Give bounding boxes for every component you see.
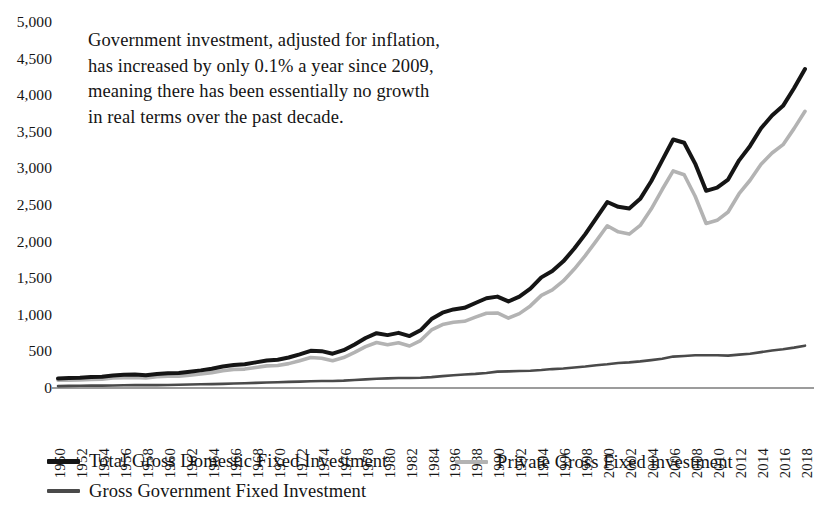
legend-item-government[interactable]: Gross Government Fixed Investment: [47, 481, 366, 501]
y-axis-tick-label: 5,000: [4, 14, 52, 30]
legend-label-private: Private Gross Fixed investment: [497, 452, 733, 472]
chart-figure: 5,0004,5004,0003,5003,0002,5002,0001,500…: [0, 0, 829, 519]
y-axis-tick-label: 1,000: [4, 307, 52, 323]
line-series-government: [58, 111, 805, 380]
legend-item-total[interactable]: Total Gross Domestic Fixed Investment: [47, 451, 387, 471]
legend-item-private[interactable]: Private Gross Fixed investment: [455, 452, 733, 472]
chart-legend: Total Gross Domestic Fixed Investment Pr…: [0, 448, 829, 519]
y-axis-tick-label: 1,500: [4, 270, 52, 286]
legend-swatch-government: [47, 489, 80, 494]
plot-area: [52, 8, 814, 392]
y-axis-tick-label: 3,000: [4, 160, 52, 176]
y-axis-tick-label: 2,000: [4, 234, 52, 250]
y-axis-tick-label: 2,500: [4, 197, 52, 213]
y-axis-tick-label: 500: [4, 343, 52, 359]
legend-swatch-total: [47, 459, 80, 464]
line-series-total: [58, 346, 805, 386]
y-axis-tick-label: 3,500: [4, 124, 52, 140]
y-axis-tick-label: 4,500: [4, 51, 52, 67]
legend-label-government: Gross Government Fixed Investment: [89, 481, 366, 501]
y-axis-tick-label: 4,000: [4, 87, 52, 103]
legend-swatch-private: [455, 460, 488, 464]
legend-label-total: Total Gross Domestic Fixed Investment: [89, 451, 387, 471]
lines-svg: [52, 8, 814, 392]
x-axis: 1950195219541956195819601962196419661968…: [0, 392, 829, 448]
